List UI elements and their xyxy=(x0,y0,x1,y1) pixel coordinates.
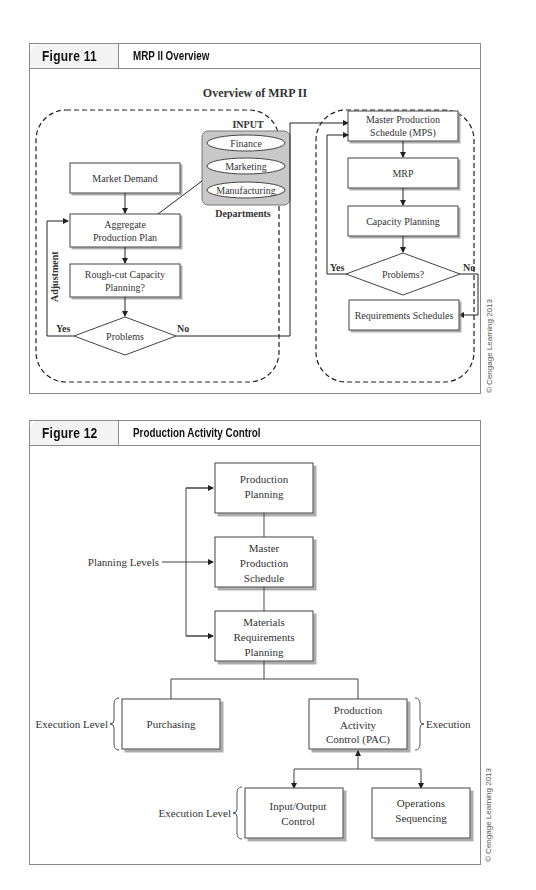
pac-line3: Control (PAC) xyxy=(326,733,390,746)
left-yes: Yes xyxy=(56,323,71,334)
aggregate-line1: Aggregate xyxy=(104,219,146,230)
right-yes: Yes xyxy=(330,262,345,273)
dept-finance: Finance xyxy=(230,138,262,149)
mrp-label: MRP xyxy=(392,168,414,179)
purchasing-label: Purchasing xyxy=(147,718,196,730)
roughcut-line1: Rough-cut Capacity xyxy=(85,269,165,280)
right-decision-label: Problems? xyxy=(382,269,425,280)
dept-marketing: Marketing xyxy=(225,161,267,172)
dept-manufacturing: Manufacturing xyxy=(216,185,275,196)
mps12-line1: Master xyxy=(249,542,280,554)
adjustment-label: Adjustment xyxy=(49,251,60,302)
departments-label: Departments xyxy=(215,208,271,219)
copyright-fig12: © Cengage Learning 2013 xyxy=(484,768,493,862)
execution-label: Execution xyxy=(426,718,471,730)
mps12-line2: Production xyxy=(240,557,289,569)
requirements-label: Requirements Schedules xyxy=(355,310,454,321)
market-demand-label: Market Demand xyxy=(92,173,157,184)
mrp-ii-diagram: Overview of MRP II INPUT Finance Marketi… xyxy=(30,44,480,393)
left-no: No xyxy=(177,323,189,334)
mrp12-line2: Requirements xyxy=(233,631,294,643)
planning-levels-label: Planning Levels xyxy=(88,556,159,568)
input-label: INPUT xyxy=(232,119,263,130)
pp-line1: Production xyxy=(240,473,289,485)
figure-11: Figure 11 MRP II Overview Overview of MR… xyxy=(29,43,481,394)
ops-line1: Operations xyxy=(397,797,445,809)
pac-line1: Production xyxy=(334,704,383,716)
mps-line2: Schedule (MPS) xyxy=(370,127,436,139)
ops-line2: Sequencing xyxy=(395,812,447,824)
right-dashed-region xyxy=(316,110,474,382)
pp-line2: Planning xyxy=(244,488,284,500)
pac-line2: Activity xyxy=(340,719,377,731)
execution-level-1: Execution Level xyxy=(36,718,108,730)
figure-12: Figure 12 Production Activity Control Pr… xyxy=(29,420,481,865)
copyright-fig11: © Cengage Learning 2013 xyxy=(485,299,494,393)
mps-line1: Master Production xyxy=(366,114,440,125)
roughcut-line2: Planning? xyxy=(105,282,146,293)
mrp12-line1: Materials xyxy=(243,616,285,628)
io-line1: Input/Output xyxy=(270,800,327,812)
io-control-box xyxy=(245,788,343,838)
capacity-label: Capacity Planning xyxy=(366,216,440,227)
execution-level-2: Execution Level xyxy=(159,807,231,819)
left-decision-label: Problems xyxy=(106,331,144,342)
diagram-title: Overview of MRP II xyxy=(203,86,308,100)
mps12-line3: Schedule xyxy=(244,572,284,584)
pac-diagram: Production Planning Master Production Sc… xyxy=(30,421,480,864)
mrp12-line3: Planning xyxy=(244,646,284,658)
aggregate-line2: Production Plan xyxy=(93,232,157,243)
io-line2: Control xyxy=(281,815,315,827)
right-no: No xyxy=(463,262,475,273)
